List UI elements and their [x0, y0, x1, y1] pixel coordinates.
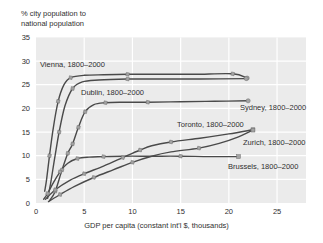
data-marker-brussels — [179, 154, 183, 158]
series-label-sydney: Sydney, 1800–2000 — [240, 103, 306, 112]
y-tick-label: 35 — [22, 33, 30, 42]
x-tick-label: 15 — [176, 207, 184, 216]
series-label-dublin: Dublin, 1800–2000 — [81, 88, 144, 97]
chart-title: % city population tonational population — [21, 9, 86, 29]
data-marker-toronto — [53, 188, 57, 192]
data-marker-sydney — [66, 151, 70, 155]
end-marker-dublin — [244, 76, 248, 80]
series-label-zurich: Zurich, 1800–2000 — [243, 138, 306, 147]
data-marker-dublin — [57, 130, 61, 134]
x-tick-label: 0 — [34, 207, 38, 216]
x-tick-label: 10 — [128, 207, 136, 216]
data-marker-vienna — [231, 72, 235, 76]
y-tick-label: 15 — [22, 128, 30, 137]
data-marker-zurich — [131, 160, 135, 164]
data-marker-brussels — [102, 155, 106, 159]
y-tick-label: 5 — [26, 175, 30, 184]
data-marker-sydney — [104, 101, 108, 105]
series-label-brussels: Brussels, 1800–2000 — [228, 162, 298, 171]
y-tick-label: 20 — [22, 104, 30, 113]
data-marker-sydney — [146, 100, 150, 104]
data-marker-vienna — [126, 72, 130, 76]
y-tick-label: 10 — [22, 151, 30, 160]
data-marker-vienna — [56, 99, 60, 103]
data-marker-vienna — [48, 154, 52, 158]
data-marker-dublin — [71, 87, 75, 91]
x-tick-label: 5 — [82, 207, 86, 216]
series-label-toronto: Toronto, 1800–2000 — [177, 120, 244, 129]
data-marker-dublin — [126, 77, 130, 81]
data-marker-zurich — [92, 176, 96, 180]
y-tick-label: 30 — [22, 57, 30, 66]
data-marker-sydney — [71, 142, 75, 146]
data-marker-brussels — [76, 157, 80, 161]
y-tick-label: 25 — [22, 80, 30, 89]
y-tick-label: 0 — [26, 199, 30, 208]
data-marker-zurich — [197, 146, 201, 150]
data-marker-brussels — [58, 170, 62, 174]
data-marker-toronto — [121, 156, 125, 160]
data-marker-sydney — [83, 110, 87, 114]
series-label-vienna: Vienna, 1800–2000 — [40, 60, 105, 69]
data-marker-toronto — [138, 148, 142, 152]
data-marker-vienna — [69, 76, 73, 80]
x-axis-label: GDP per capita (constant int'l $, thousa… — [0, 221, 313, 230]
data-marker-zurich — [58, 193, 62, 197]
data-marker-sydney — [77, 125, 81, 129]
data-marker-toronto — [82, 172, 86, 176]
end-marker-zurich — [251, 128, 255, 132]
chart-figure: % city population tonational population … — [0, 0, 323, 243]
chart-canvas: Vienna, 1800–2000Dublin, 1800–2000Sydney… — [0, 0, 323, 243]
data-marker-brussels — [46, 192, 50, 196]
chart-title-line2: national population — [21, 19, 84, 28]
x-tick-label: 25 — [273, 207, 281, 216]
data-marker-toronto — [169, 140, 173, 144]
x-tick-label: 20 — [225, 207, 233, 216]
chart-title-line1: % city population to — [21, 9, 86, 18]
end-marker-brussels — [237, 155, 241, 159]
